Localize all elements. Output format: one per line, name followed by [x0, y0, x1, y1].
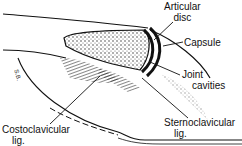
- label-costoclavicular-lig-line1: Costoclavicular: [2, 124, 70, 135]
- label-articular-disc-line1: Articular: [164, 1, 201, 12]
- clavicle-lower-edge: [3, 50, 66, 58]
- label-capsule: Capsule: [184, 37, 221, 48]
- label-sternoclavicular-lig-line2: lig.: [164, 128, 235, 139]
- label-articular-disc: Articular disc: [164, 1, 201, 23]
- leader-costoclavicular-lig: [50, 76, 100, 124]
- label-sternoclavicular-lig: Sternoclavicular lig.: [164, 117, 235, 139]
- label-sternoclavicular-lig-line1: Sternoclavicular: [164, 117, 235, 128]
- label-joint-cavities: Joint cavities: [182, 69, 225, 91]
- label-joint-cavities-line2: cavities: [182, 80, 225, 91]
- sternoclavicular-joint-diagram: Articular disc Capsule Joint cavities St…: [0, 0, 242, 146]
- label-articular-disc-line2: disc: [164, 12, 201, 23]
- clavicle-upper-edge: [3, 14, 148, 28]
- label-costoclavicular-lig: Costoclavicular lig.: [2, 124, 70, 146]
- leader-articular-disc: [154, 22, 173, 40]
- label-costoclavicular-lig-line2: lig.: [2, 135, 70, 146]
- label-joint-cavities-line1: Joint: [182, 69, 225, 80]
